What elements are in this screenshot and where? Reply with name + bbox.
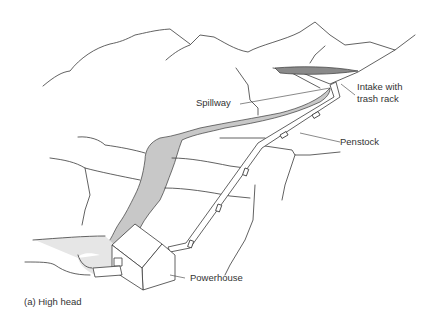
figure-caption: (a) High head	[24, 296, 82, 308]
label-penstock: Penstock	[340, 136, 379, 148]
leader-lines	[170, 84, 355, 278]
hydro-scheme-diagram: Spillway Intake with trash rack Penstock…	[0, 0, 435, 326]
label-intake-line1: Intake with	[357, 81, 402, 93]
label-intake-line2: trash rack	[357, 93, 399, 105]
label-powerhouse: Powerhouse	[190, 272, 243, 284]
reservoir	[275, 67, 358, 75]
label-spillway: Spillway	[196, 97, 231, 109]
penstock-pipe	[168, 82, 340, 252]
